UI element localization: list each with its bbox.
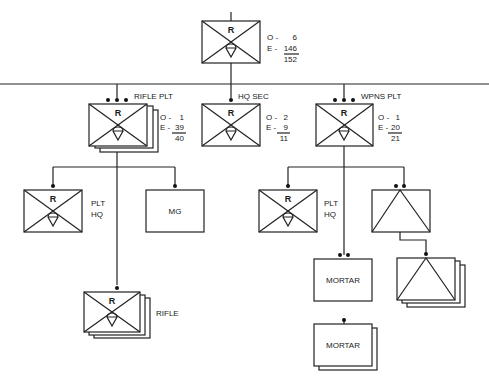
svg-text:21: 21 <box>391 134 400 143</box>
svg-text:152: 152 <box>284 55 298 64</box>
svg-text:O -: O - <box>160 113 171 122</box>
svg-text:6: 6 <box>293 33 298 42</box>
svg-text:R: R <box>50 194 57 204</box>
wpns-plt-label: WPNS PLT <box>361 92 401 101</box>
svg-text:9: 9 <box>284 123 289 132</box>
svg-text:R: R <box>115 108 122 118</box>
svg-text:R: R <box>228 108 235 118</box>
company-node: R O - 6 E - 146 152 <box>202 21 299 64</box>
wpns-plt-node: R WPNS PLT O - 1 E - 20 21 <box>316 92 402 146</box>
svg-text:20: 20 <box>391 123 400 132</box>
svg-text:E -: E - <box>266 123 277 132</box>
mortar-squad-node: MORTAR <box>314 318 377 370</box>
svg-text:1: 1 <box>180 113 185 122</box>
svg-text:2: 2 <box>284 113 289 122</box>
mg-node: MG <box>146 184 204 232</box>
rifle-squad-node: R RIFLE <box>84 286 179 338</box>
svg-text:O -: O - <box>378 113 389 122</box>
svg-text:MORTAR: MORTAR <box>326 341 360 350</box>
svg-text:40: 40 <box>175 134 184 143</box>
svg-text:O -: O - <box>266 113 277 122</box>
svg-text:146: 146 <box>284 44 298 53</box>
svg-text:11: 11 <box>280 134 289 143</box>
unit-letter: R <box>228 25 235 35</box>
svg-text:E -: E - <box>160 123 171 132</box>
svg-text:1: 1 <box>396 113 401 122</box>
svg-text:HQ: HQ <box>324 210 336 219</box>
svg-text:MORTAR: MORTAR <box>326 276 360 285</box>
svg-text:RIFLE: RIFLE <box>156 309 179 318</box>
svg-text:E -: E - <box>378 123 389 132</box>
hq-sec-node: R HQ SEC O - 2 E - 9 11 <box>202 92 290 146</box>
rifle-plt-label: RIFLE PLT <box>134 92 173 101</box>
svg-text:MG: MG <box>169 207 182 216</box>
org-chart: R O - 6 E - 146 152 R RIFLE PLT O - 1 E … <box>0 0 489 389</box>
hq-sec-label: HQ SEC <box>238 92 269 101</box>
svg-text:R: R <box>341 108 348 118</box>
svg-text:E -: E - <box>267 44 278 53</box>
mortar-symbol-node <box>372 184 430 232</box>
mortar-section-node: MORTAR <box>314 253 372 301</box>
svg-text:R: R <box>285 194 292 204</box>
svg-text:PLT: PLT <box>91 199 105 208</box>
svg-text:PLT: PLT <box>324 199 338 208</box>
rifle-plt-hq-node: R PLT HQ <box>24 184 105 232</box>
rifle-plt-node: R RIFLE PLT O - 1 E - 39 40 <box>89 92 186 152</box>
svg-text:O -: O - <box>267 33 278 42</box>
svg-text:R: R <box>109 296 116 306</box>
svg-text:39: 39 <box>175 123 184 132</box>
mortar-symbol-stacked-node <box>397 252 465 307</box>
svg-text:HQ: HQ <box>91 210 103 219</box>
wpns-plt-hq-node: R PLT HQ <box>259 184 338 232</box>
